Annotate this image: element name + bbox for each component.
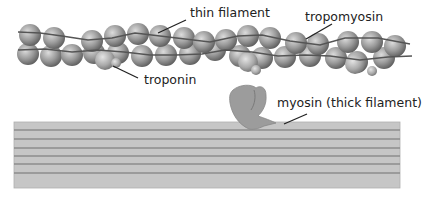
thin-filament-label: thin filament bbox=[190, 7, 270, 20]
troponin-pointer bbox=[113, 66, 138, 78]
thick-filament bbox=[14, 122, 400, 188]
tropomyosin-label: tropomyosin bbox=[305, 11, 383, 24]
muscle-filament-diagram: thin filament tropomyosin troponin myosi… bbox=[0, 0, 428, 201]
myosin-label: myosin (thick filament) bbox=[277, 97, 422, 110]
troponin-label: troponin bbox=[144, 74, 196, 87]
